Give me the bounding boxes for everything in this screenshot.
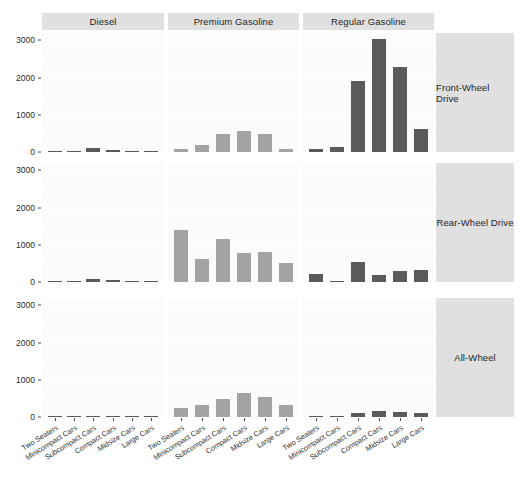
bar (414, 413, 428, 417)
bar (195, 405, 209, 417)
column-facet-label-diesel: Diesel (42, 13, 164, 30)
row-facet-label-rear-wheel-drive: Rear-Wheel Drive (436, 163, 514, 282)
bar (106, 280, 120, 282)
bar (86, 279, 100, 282)
y-axis-tick-label: 0 (30, 147, 35, 157)
panel-front-wheel-drive-premium-gasoline (168, 33, 299, 152)
bar (258, 252, 272, 282)
y-axis-tick-label: 3000 (16, 35, 35, 45)
y-axis-tick-label: 3000 (16, 300, 35, 310)
y-axis-tick-mark (38, 77, 41, 78)
bar (351, 413, 365, 417)
panel-all-wheel-regular-gasoline (303, 298, 434, 417)
bar (125, 151, 139, 152)
bar (330, 281, 344, 282)
x-axis-tick-mark (316, 418, 317, 421)
bar (195, 259, 209, 282)
bar (393, 67, 407, 152)
bar-series (168, 298, 299, 417)
y-axis-tick-mark (38, 170, 41, 171)
bar (372, 39, 386, 152)
x-axis-tick-mark (421, 418, 422, 421)
bar (216, 239, 230, 283)
bar (279, 149, 293, 152)
y-axis-tick-label: 2000 (16, 73, 35, 83)
y-axis-tick-mark (38, 114, 41, 115)
bar (125, 281, 139, 282)
bar (393, 271, 407, 282)
bar (258, 397, 272, 417)
bar (144, 281, 158, 282)
y-axis-tick-mark (38, 342, 41, 343)
y-axis-tick-label: 1000 (16, 240, 35, 250)
bar (237, 393, 251, 417)
bar (372, 275, 386, 282)
row-facet-label-front-wheel-drive: Front-Wheel Drive (436, 33, 514, 152)
x-axis-tick-mark (132, 418, 133, 421)
bar (67, 281, 81, 282)
x-axis-tick-mark (223, 418, 224, 421)
x-axis-tick-mark (93, 418, 94, 421)
y-axis-tick-mark (38, 282, 41, 283)
y-axis-tick-mark (38, 207, 41, 208)
y-axis-tick-mark (38, 40, 41, 41)
bar (125, 416, 139, 417)
x-axis-tick-mark (400, 418, 401, 421)
panel-rear-wheel-drive-premium-gasoline (168, 163, 299, 282)
bar (309, 416, 323, 417)
x-axis-tick-mark (181, 418, 182, 421)
y-axis-tick-mark (38, 152, 41, 153)
y-axis-tick-label: 0 (30, 277, 35, 287)
bar-series (168, 33, 299, 152)
y-axis-tick-label: 1000 (16, 375, 35, 385)
bar (279, 263, 293, 282)
bar (174, 408, 188, 417)
y-axis-tick-mark (38, 417, 41, 418)
bar (174, 230, 188, 282)
bar (309, 274, 323, 282)
bar (351, 262, 365, 282)
bar-series (42, 298, 164, 417)
bar (258, 134, 272, 152)
bar-series (303, 33, 434, 152)
x-axis-tick-mark (358, 418, 359, 421)
bar (216, 134, 230, 152)
bar (106, 416, 120, 417)
bar (86, 416, 100, 417)
x-axis-tick-mark (202, 418, 203, 421)
bar (48, 281, 62, 282)
column-facet-label-premium-gasoline: Premium Gasoline (168, 13, 299, 30)
x-axis-tick-mark (151, 418, 152, 421)
y-axis-tick-mark (38, 305, 41, 306)
bar (144, 151, 158, 152)
bar (351, 81, 365, 152)
bar-series (303, 163, 434, 282)
bar-series (303, 298, 434, 417)
column-facet-label-regular-gasoline: Regular Gasoline (303, 13, 434, 30)
bar (279, 405, 293, 417)
x-axis-tick-mark (113, 418, 114, 421)
bar (414, 270, 428, 282)
x-axis-tick-mark (337, 418, 338, 421)
bar (309, 149, 323, 152)
x-axis-tick-mark (74, 418, 75, 421)
x-axis-tick-mark (286, 418, 287, 421)
bar (372, 411, 386, 417)
panel-rear-wheel-drive-diesel (42, 163, 164, 282)
panel-front-wheel-drive-diesel (42, 33, 164, 152)
facet-bar-chart: DieselPremium GasolineRegular Gasoline F… (0, 0, 529, 496)
y-axis-tick-label: 3000 (16, 165, 35, 175)
x-axis-tick-mark (379, 418, 380, 421)
x-axis-tick-mark (55, 418, 56, 421)
y-axis-tick-label: 0 (30, 412, 35, 422)
y-axis-tick-label: 1000 (16, 110, 35, 120)
bar (237, 253, 251, 282)
bar (195, 145, 209, 152)
bar (86, 148, 100, 152)
y-axis-tick-mark (38, 244, 41, 245)
bar (414, 129, 428, 152)
bar (48, 151, 62, 152)
panel-front-wheel-drive-regular-gasoline (303, 33, 434, 152)
bar (330, 147, 344, 152)
y-axis-tick-label: 2000 (16, 203, 35, 213)
